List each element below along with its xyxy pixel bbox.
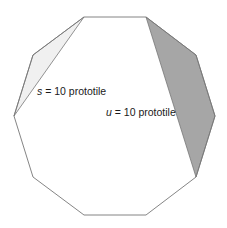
decagon-diagram: s = 10 prototile u = 10 prototile [0,0,227,228]
u-label-text: = 10 prototile [112,106,176,118]
prototile-s-shape [14,17,84,116]
prototile-u-shape [146,17,215,177]
s-label-text: = 10 prototile [42,85,106,97]
prototile-u-label: u = 10 prototile [106,106,176,118]
prototile-s-label: s = 10 prototile [37,85,106,97]
